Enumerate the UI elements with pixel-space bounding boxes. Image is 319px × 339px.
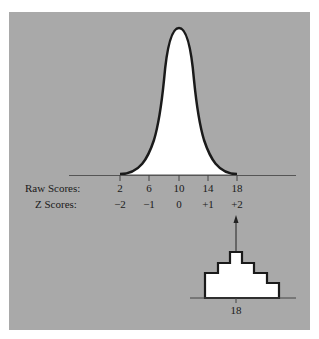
raw-tick-label: 2 — [117, 182, 123, 194]
raw-tick-label: 14 — [203, 182, 215, 194]
z-scores-label: Z Scores: — [35, 198, 77, 210]
raw-tick-label: 10 — [174, 182, 186, 194]
z-tick-label: 0 — [176, 198, 182, 210]
raw-tick-label: 6 — [146, 182, 152, 194]
raw-tick-label: 18 — [232, 182, 244, 194]
raw-scores-label: Raw Scores: — [25, 182, 80, 194]
z-tick-label: +1 — [202, 198, 214, 210]
z-tick-label: +2 — [231, 198, 243, 210]
arrow-head-icon — [234, 215, 239, 223]
normal-curve — [120, 28, 237, 174]
z-tick-label: −2 — [114, 198, 126, 210]
histogram-inset — [205, 252, 279, 298]
z-tick-label: −1 — [143, 198, 155, 210]
distribution-diagram: Raw Scores: Z Scores: 2 6 10 14 18 −2 −1… — [0, 0, 319, 339]
inset-tick-label: 18 — [231, 304, 243, 316]
